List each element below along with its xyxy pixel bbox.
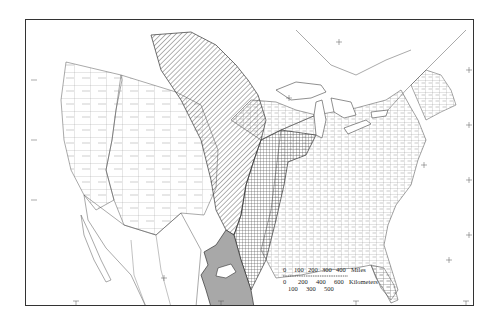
scale-bar: 0 100 200 300 400 Miles 0 200 400 600 Ki… [283,266,378,292]
miles-tick-400: 400 [336,266,346,273]
km-tick-400: 400 [316,278,326,285]
km-tick-100: 100 [288,285,298,292]
hudson-bay-coast [296,30,411,75]
map-frame: 0 100 200 300 400 Miles 0 200 400 600 Ki… [25,19,474,306]
km-tick-500: 500 [324,285,334,292]
miles-label: Miles [351,266,366,273]
km-tick-200: 200 [298,278,308,285]
miles-tick-100: 100 [294,266,304,273]
miles-tick-0: 0 [283,266,286,273]
lake-superior [276,82,326,100]
miles-tick-300: 300 [322,266,332,273]
km-label: Kilometers [349,278,378,285]
km-tick-0: 0 [283,278,286,285]
km-tick-600: 600 [334,278,344,285]
map-canvas: 0 100 200 300 400 Miles 0 200 400 600 Ki… [26,20,474,306]
km-tick-300: 300 [306,285,316,292]
maine-maritimes [411,70,456,120]
miles-tick-200: 200 [308,266,318,273]
